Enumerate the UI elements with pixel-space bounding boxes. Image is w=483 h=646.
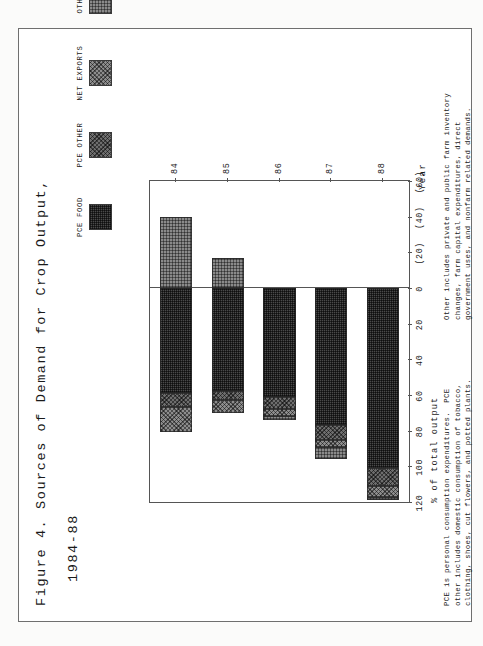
category-axis-tick-label: 84	[170, 163, 180, 174]
value-axis-tick-label: (20)	[415, 242, 425, 265]
legend-item-pce-other: PCE OTHER	[76, 122, 112, 168]
bar-segment	[367, 497, 399, 501]
bar-segment	[315, 447, 347, 459]
value-axis-tick	[408, 502, 412, 503]
legend-item-pce-food: PCE FOOD	[76, 194, 112, 240]
value-axis-tick-label: 80	[415, 426, 425, 437]
bar-segment	[367, 468, 399, 486]
value-axis-tick	[408, 395, 412, 396]
footnote-right: Other includes private and public farm i…	[442, 93, 474, 320]
value-axis-tick-label: (40)	[415, 206, 425, 229]
legend-label: PCE OTHER	[76, 122, 84, 167]
legend-label: OTHER	[76, 0, 84, 14]
value-axis-tick	[408, 466, 412, 467]
plot-area-wrapper	[149, 180, 410, 503]
value-axis-tick-label: 20	[415, 319, 425, 330]
category-axis-tick-label: 86	[274, 163, 284, 174]
value-axis-tick	[408, 324, 412, 325]
bar-segment	[315, 425, 347, 439]
rotated-figure-canvas: Figure 4. Sources of Demand for Crop Out…	[18, 28, 470, 620]
bar-segment	[212, 258, 244, 288]
value-axis-tick-label: 120	[415, 495, 425, 512]
bar-segment	[263, 288, 295, 397]
value-axis-title: % of total output	[430, 182, 440, 503]
page-title: Figure 4. Sources of Demand for Crop Out…	[34, 179, 49, 606]
scanned-page-background: Figure 4. Sources of Demand for Crop Out…	[0, 0, 483, 646]
bar-segment	[212, 391, 244, 400]
value-axis-tick	[408, 252, 412, 253]
legend-label: PCE FOOD	[76, 197, 84, 237]
bar-segment	[212, 400, 244, 412]
value-axis-tick	[408, 359, 412, 360]
value-axis-tick	[408, 431, 412, 432]
category-axis-tick	[382, 178, 383, 182]
bar-segment	[212, 288, 244, 391]
category-axis-tick-label: 87	[325, 163, 335, 174]
value-axis-tick	[408, 181, 412, 182]
category-axis-tick-label: 88	[377, 163, 387, 174]
category-axis-tick-label: 85	[222, 163, 232, 174]
value-axis-tick-label: 100	[415, 459, 425, 476]
bar-segment	[160, 393, 192, 407]
category-axis-tick	[279, 178, 280, 182]
legend-item-other: OTHER	[76, 0, 112, 24]
chart-legend: PCE FOOD PCE OTHER NET EXPORTS OTHER	[76, 0, 112, 240]
legend-label: NET EXPORTS	[76, 45, 84, 100]
category-axis: 8485868788	[149, 136, 408, 182]
value-axis-tick-label: 0	[415, 286, 425, 292]
value-axis-tick-label: 60	[415, 390, 425, 401]
category-axis-title: Year	[418, 163, 428, 190]
category-axis-tick	[330, 178, 331, 182]
value-axis-tick	[408, 288, 412, 289]
value-axis-tick-label: 40	[415, 355, 425, 366]
bar-chart-plot	[149, 180, 410, 503]
legend-swatch-icon	[89, 60, 112, 86]
bar-segment	[160, 217, 192, 288]
bar-segment	[315, 288, 347, 425]
bar-segment	[367, 486, 399, 497]
legend-item-net-exports: NET EXPORTS	[76, 50, 112, 96]
category-axis-tick	[175, 178, 176, 182]
bar-segment	[263, 409, 295, 416]
legend-swatch-icon	[89, 0, 112, 14]
value-axis-tick	[408, 217, 412, 218]
bar-segment	[160, 408, 192, 433]
legend-swatch-icon	[89, 132, 112, 158]
figure-title: Figure 4. Sources of Demand for Crop Out…	[34, 179, 81, 606]
bar-segment	[315, 440, 347, 447]
bar-segment	[367, 288, 399, 468]
footnote-left: PCE is personal consumption expenditures…	[442, 379, 474, 606]
legend-swatch-icon	[89, 204, 112, 230]
category-axis-tick	[227, 178, 228, 182]
bar-segment	[160, 288, 192, 393]
bar-segment	[263, 397, 295, 409]
bar-segment	[263, 416, 295, 420]
